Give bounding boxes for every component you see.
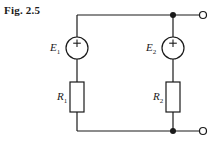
- junction-dot-bottom: [170, 128, 176, 134]
- voltage-source-2-label-symbol: E: [146, 41, 153, 53]
- voltage-source-1-label-symbol: E: [50, 41, 57, 53]
- resistor-1-label-subscript: 1: [64, 97, 68, 105]
- terminal-top-open-circle: [200, 12, 207, 19]
- voltage-source-2-label-subscript: 2: [153, 48, 157, 56]
- resistor-1-label: R1: [57, 91, 67, 105]
- resistor-1-label-symbol: R: [57, 90, 64, 102]
- voltage-source-2-label: E2: [146, 42, 156, 56]
- resistor-2-label: R2: [153, 91, 163, 105]
- terminal-bottom-open-circle: [200, 128, 207, 135]
- junction-dot-top: [170, 12, 176, 18]
- resistor-2-label-subscript: 2: [160, 97, 164, 105]
- circuit-figure: Fig. 2.5 E1 E2 R1 R2: [0, 0, 220, 145]
- resistor-2-symbol: [166, 82, 180, 112]
- circuit-schematic: [0, 0, 220, 145]
- resistor-2-label-symbol: R: [153, 90, 160, 102]
- resistor-1-symbol: [70, 82, 84, 112]
- voltage-source-1-label: E1: [50, 42, 60, 56]
- voltage-source-1-label-subscript: 1: [57, 48, 61, 56]
